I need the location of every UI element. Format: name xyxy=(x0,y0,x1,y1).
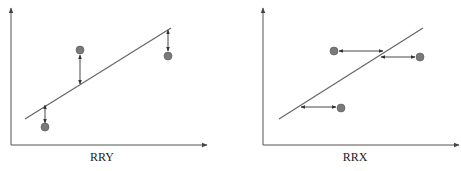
rry-panel xyxy=(11,8,207,145)
data-point xyxy=(76,46,84,54)
rry-axis-label: RRY xyxy=(90,150,114,165)
data-point xyxy=(164,52,172,60)
data-point xyxy=(337,104,345,112)
data-point xyxy=(330,47,338,55)
data-point xyxy=(41,123,49,131)
regression-line xyxy=(25,28,171,119)
data-point xyxy=(416,53,424,61)
regression-diagram xyxy=(0,0,461,171)
regression-line xyxy=(279,28,423,119)
rrx-axis-label: RRX xyxy=(343,150,368,165)
rrx-panel xyxy=(263,8,459,145)
